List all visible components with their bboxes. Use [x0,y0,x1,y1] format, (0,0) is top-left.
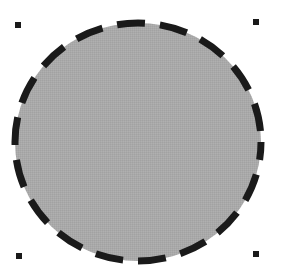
resize-handle-bottom-left[interactable] [16,253,22,259]
drawing-canvas[interactable] [0,0,282,272]
canvas-svg [0,0,282,272]
resize-handle-top-right[interactable] [253,19,259,25]
resize-handle-bottom-right[interactable] [253,251,259,257]
resize-handle-top-left[interactable] [15,22,21,28]
selected-circle-shape[interactable] [15,23,261,261]
